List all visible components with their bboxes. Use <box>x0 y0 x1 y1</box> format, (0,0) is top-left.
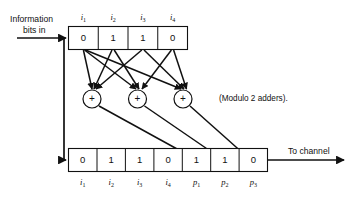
information-register-cell-label-3: i3 <box>140 12 145 23</box>
codeword-register-cell-value-3: 1 <box>137 154 142 165</box>
information-register-cell-label-1: i1 <box>81 12 86 23</box>
information-bits-label-line2: bits in <box>23 25 46 35</box>
codeword-register-cell-label-3: i3 <box>137 177 142 188</box>
encoder-diagram: Information bits in 0 1 1 0 i1 i2 i3 i4 <box>0 0 356 206</box>
adder2-output-to-p2 <box>145 106 217 155</box>
information-register-cell-label-4: i4 <box>170 12 175 23</box>
adder-2-plus-icon: + <box>135 93 141 104</box>
codeword-register-cell-value-1: 0 <box>80 154 85 165</box>
tap-i1-to-adder1 <box>83 50 92 89</box>
information-register-cell-value-4: 0 <box>170 32 175 43</box>
tap-i3-to-adder3 <box>144 50 184 89</box>
modulo-2-adders-note: (Modulo 2 adders). <box>219 94 288 103</box>
information-register-cell-value-1: 0 <box>81 32 86 43</box>
diagram-canvas: Information bits in 0 1 1 0 i1 i2 i3 i4 <box>0 0 356 206</box>
adder1-output-to-p1 <box>99 106 188 155</box>
codeword-register-cell-label-6: p2 <box>220 177 228 188</box>
information-bits-label-line1: Information <box>10 14 53 24</box>
codeword-register-cell-label-4: i4 <box>165 177 170 188</box>
codeword-register-cell-value-4: 0 <box>165 154 170 165</box>
codeword-register-cell-value-6: 1 <box>222 154 227 165</box>
information-register-cell-value-2: 1 <box>110 32 115 43</box>
codeword-register-cell-value-5: 1 <box>194 154 199 165</box>
codeword-register-cell-label-2: i2 <box>109 177 114 188</box>
adder-1-plus-icon: + <box>89 93 95 104</box>
codeword-register-cell-label-5: p1 <box>192 177 200 188</box>
codeword-register-cell-label-7: p3 <box>249 177 257 188</box>
tap-i4-to-adder3 <box>174 50 187 89</box>
tap-i1-to-adder2 <box>85 50 137 89</box>
information-register-cell-label-2: i2 <box>110 12 115 23</box>
information-register-cell-value-3: 1 <box>140 32 145 43</box>
codeword-register-cell-label-1: i1 <box>80 177 85 188</box>
codeword-register-cell-value-2: 1 <box>109 154 114 165</box>
codeword-register-cell-value-7: 0 <box>251 154 256 165</box>
adder-3-plus-icon: + <box>180 93 186 104</box>
to-channel-label: To channel <box>288 146 330 156</box>
adder3-output-to-p3 <box>190 106 245 155</box>
